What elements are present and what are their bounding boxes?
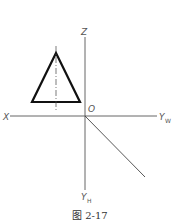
miter-line [85,116,145,177]
yh-subscript: H [87,197,92,204]
yw-subscript: W [165,117,171,124]
origin-label: O [88,104,95,114]
figure-caption: 图 2-17 [72,210,108,221]
x-label: X [2,112,10,122]
projection-diagram: Z X O Y W Y H 图 2-17 [0,0,181,224]
z-label: Z [80,27,88,37]
